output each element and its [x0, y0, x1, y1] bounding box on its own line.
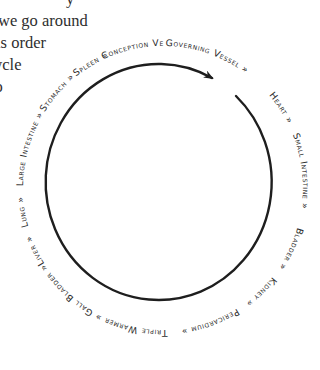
label-pericardium: Pericardium » [180, 307, 241, 338]
label-lung-text: Lung » [14, 196, 30, 229]
label-triple-warmer: Triple Warmer » [93, 311, 169, 339]
label-liver: Liver » [22, 234, 46, 268]
label-pericardium-text: Pericardium » [180, 307, 241, 338]
label-lung: Lung » [14, 196, 30, 229]
label-conception-vessel-text: Conception Vessel » [0, 0, 164, 61]
label-bladder: Bladder » [277, 227, 306, 273]
meridian-cycle-diagram: Governing Vessel » Heart » Small Intesti… [0, 0, 320, 370]
label-heart-text: Heart » [267, 89, 296, 125]
label-kidney-text: Kidney » [244, 275, 279, 310]
label-conception-vessel: Conception Vessel » [0, 0, 164, 61]
label-liver-text: Liver » [22, 234, 46, 268]
label-large-intestine-text: Large Intestine » [14, 110, 45, 187]
label-bladder-text: Bladder » [277, 227, 306, 273]
label-kidney: Kidney » [244, 275, 279, 310]
ring-labels: Governing Vessel » [165, 37, 251, 75]
label-governing-vessel: Governing Vessel » [165, 37, 251, 75]
label-small-intestine: Small Intestine » [291, 131, 312, 210]
label-heart: Heart » [267, 89, 296, 125]
label-triple-warmer-text: Triple Warmer » [93, 311, 169, 339]
label-small-intestine-text: Small Intestine » [291, 131, 312, 210]
cycle-arrow [46, 64, 272, 300]
label-large-intestine: Large Intestine » [14, 110, 45, 187]
